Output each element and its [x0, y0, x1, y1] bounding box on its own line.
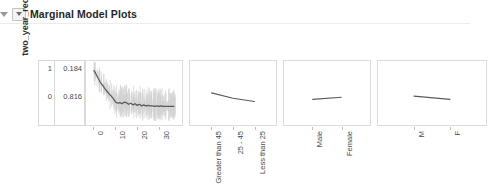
x-tick-label: Female — [346, 131, 354, 156]
y-tick-class-bottom: 0 — [48, 92, 52, 101]
x-tick-label: M — [418, 131, 426, 137]
x-tick-mark — [137, 127, 138, 130]
x-tick-mark — [115, 127, 116, 130]
x-tick-mark — [255, 127, 256, 130]
x-tick-mark — [233, 127, 234, 130]
plot-card: two_year_recid 1 0 0.184 0.816 0102030Gr… — [8, 28, 470, 176]
panel-header: Marginal Model Plots — [0, 6, 470, 22]
panel-age_cat[interactable] — [189, 60, 277, 126]
x-tick-label: F — [454, 131, 462, 136]
x-tick-label: 25 - 45 — [237, 131, 245, 154]
y-tick-class-top: 1 — [48, 64, 52, 73]
x-tick-label: 10 — [119, 131, 127, 139]
plot-panels — [85, 60, 487, 126]
x-tick-mark — [342, 127, 343, 130]
x-tick-label: 30 — [163, 131, 171, 139]
x-tick-label: Greater than 45 — [215, 131, 223, 184]
x-tick-label: 0 — [97, 131, 105, 135]
marginal-model-plots-widget: Marginal Model Plots two_year_recid 1 0 … — [0, 0, 488, 185]
x-tick-mark — [414, 127, 415, 130]
page-title: Marginal Model Plots — [30, 8, 137, 20]
y-tick-prop-bottom: 0.816 — [63, 92, 82, 101]
y-axis-tick-cells: 1 0 0.184 0.816 — [38, 60, 85, 126]
x-tick-mark — [312, 127, 313, 130]
x-tick-mark — [93, 127, 94, 130]
x-tick-mark — [211, 127, 212, 130]
triangle-down-icon[interactable] — [0, 12, 8, 17]
y-tick-prop-top: 0.184 — [63, 64, 82, 73]
panel-sex[interactable] — [283, 60, 371, 126]
x-tick-label: Male — [316, 131, 324, 147]
y-axis-proportion-column: 0.184 0.816 — [54, 60, 85, 126]
y-axis-label: two_year_recid — [19, 0, 31, 58]
y-axis-class-column: 1 0 — [38, 60, 54, 126]
x-tick-mark — [450, 127, 451, 130]
panel-priors_count[interactable] — [85, 60, 183, 126]
header-divider — [0, 23, 470, 24]
x-tick-label: 20 — [141, 131, 149, 139]
x-tick-mark — [159, 127, 160, 130]
x-tick-label: Less than 25 — [259, 131, 267, 174]
panel-c_charge_degree[interactable] — [377, 60, 487, 126]
